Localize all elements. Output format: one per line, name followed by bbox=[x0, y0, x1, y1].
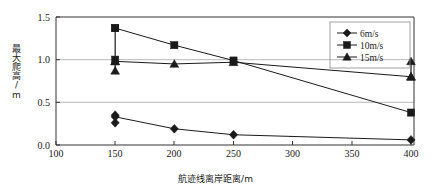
legend-label-2: 15m/s bbox=[360, 53, 384, 63]
x-axis-label: 航迹线离岸距离/m bbox=[0, 168, 431, 186]
data-point-square bbox=[171, 42, 178, 49]
y-tick-label-1: 0.5 bbox=[38, 97, 51, 108]
y-axis-label: 最大爬高/m bbox=[8, 22, 24, 122]
x-tick-label-3: 250 bbox=[226, 148, 241, 159]
data-point-square bbox=[407, 109, 414, 116]
chart-figure: 0.0 0.5 1.0 1.5 100 150 200 250 300 350 … bbox=[0, 0, 431, 186]
square-icon bbox=[344, 42, 351, 49]
legend-label-1: 10m/s bbox=[360, 41, 384, 51]
data-point-square bbox=[112, 24, 119, 31]
legend-label-0: 6m/s bbox=[360, 29, 379, 39]
y-tick-label-2: 1.0 bbox=[38, 54, 51, 65]
x-axis-label-text: 航迹线离岸距离/m bbox=[178, 174, 253, 184]
x-tick-label-1: 150 bbox=[108, 148, 123, 159]
x-tick-label-6: 400 bbox=[404, 148, 419, 159]
x-tick-label-0: 100 bbox=[49, 148, 64, 159]
y-tick-label-3: 1.5 bbox=[38, 12, 51, 23]
chart-canvas: 0.0 0.5 1.0 1.5 100 150 200 250 300 350 … bbox=[0, 0, 431, 186]
x-tick-label-5: 350 bbox=[345, 148, 360, 159]
y-axis-label-text: 最大爬高/m bbox=[12, 44, 21, 100]
x-tick-label-4: 300 bbox=[285, 148, 300, 159]
x-tick-label-2: 200 bbox=[167, 148, 182, 159]
